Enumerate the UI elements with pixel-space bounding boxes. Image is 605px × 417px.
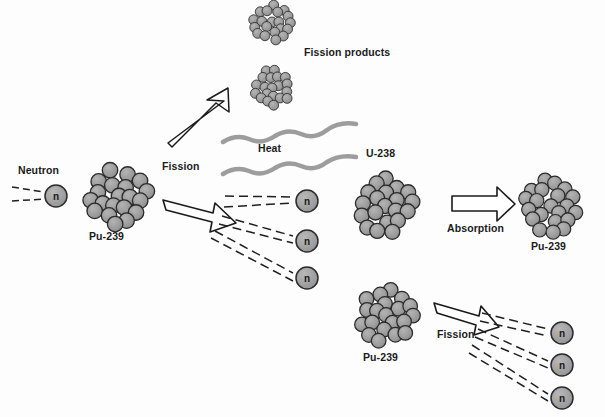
heat-label: Heat <box>258 142 281 154</box>
incoming-neutron: n <box>45 185 67 207</box>
absorption-arrow <box>452 187 515 221</box>
emitted-neutron-1: n <box>296 190 318 212</box>
emitted-neutron-2: n <box>296 230 318 252</box>
incoming-neutron-trails <box>12 187 44 201</box>
emitted-neutron-trails <box>211 196 293 281</box>
neutron-glyph: n <box>559 328 565 339</box>
bottom-emitted-neutron-2: n <box>551 354 573 376</box>
neutron-glyph: n <box>304 236 310 247</box>
fission-bottom-label: Fission <box>437 328 474 340</box>
pu239-bottom-label: Pu-239 <box>363 351 398 363</box>
emitted-neutron-3: n <box>296 267 318 289</box>
bottom-emitted-neutron-1: n <box>551 322 573 344</box>
fission-neutrons-arrow <box>163 200 236 232</box>
neutron-glyph: n <box>559 360 565 371</box>
pu239-right-nucleus <box>519 173 583 239</box>
pu239-left-nucleus <box>83 162 155 231</box>
neutron-glyph: n <box>53 191 59 202</box>
heat-waves <box>223 123 356 174</box>
bottom-emitted-neutron-3: n <box>551 387 573 409</box>
pu239-left-label: Pu-239 <box>89 230 124 242</box>
heat-wave-lower <box>223 156 356 174</box>
pu239-bottom-nucleus <box>355 283 421 349</box>
absorption-label: Absorption <box>447 222 504 234</box>
fission-left-label: Fission <box>162 160 199 172</box>
fission-product-bottom-nucleus <box>250 65 292 110</box>
fission-products-arrow <box>168 88 229 147</box>
neutron-glyph: n <box>304 196 310 207</box>
fission-diagram-canvas: nnnnnnn Neutron Pu-239 Fission Fission p… <box>0 0 605 417</box>
neutron-label: Neutron <box>18 164 59 176</box>
fission-product-top-nucleus <box>249 0 296 45</box>
heat-wave-upper <box>223 123 356 142</box>
fission-products-label: Fission products <box>304 46 390 58</box>
u238-label: U-238 <box>366 147 395 159</box>
u238-nucleus <box>354 171 420 239</box>
neutron-glyph: n <box>559 393 565 404</box>
neutron-glyph: n <box>304 273 310 284</box>
pu239-right-label: Pu-239 <box>531 240 566 252</box>
diagram-vector-layer: nnnnnnn <box>0 0 605 417</box>
